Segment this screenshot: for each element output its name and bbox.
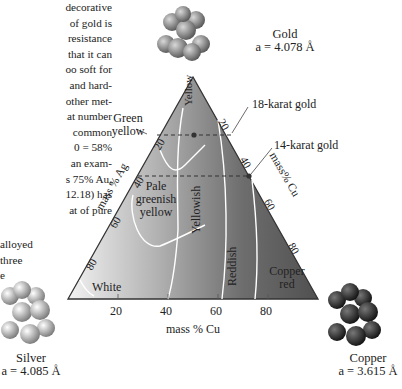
paragraph-line: at number	[0, 109, 112, 125]
paragraph-line: decorative	[0, 0, 112, 16]
bottom-axis-tick: 40	[160, 305, 172, 318]
paragraph-line: of gold is	[0, 16, 112, 32]
region-yellow: Yellow	[182, 75, 195, 106]
annotation-14-karat: 14-karat gold	[274, 139, 338, 152]
bottom-axis-label: mass % Cu	[166, 323, 220, 336]
body-paragraph: decorative of gold is resistance that it…	[0, 0, 112, 218]
paragraph-line: an exam-	[0, 156, 112, 172]
gold-atom-cluster-icon	[157, 6, 210, 61]
paragraph-line: that it can	[0, 47, 112, 63]
copper-atom-cluster-icon	[328, 283, 381, 346]
region-white: White	[92, 281, 121, 294]
region-copper-red: Copper red	[262, 265, 312, 291]
region-yellowish: Yellowish	[190, 186, 203, 234]
silver-label: Silver a = 4.085 Å	[0, 352, 66, 378]
paragraph-line: and hard-	[0, 78, 112, 94]
paragraph-line: e	[0, 268, 33, 284]
region-green-yellow: Green yellow	[108, 112, 148, 138]
paragraph-line: oo soft for	[0, 62, 112, 78]
annotation-18-karat: 18-karat gold	[252, 98, 316, 111]
paragraph-line: alloyed	[0, 237, 33, 253]
silver-atom-cluster-icon	[1, 281, 55, 344]
region-reddish: Reddish	[226, 247, 239, 286]
bottom-axis-tick: 60	[210, 305, 222, 318]
body-paragraph-2: alloyed three e	[0, 237, 33, 284]
paragraph-line: resistance	[0, 31, 112, 47]
paragraph-line: other met-	[0, 94, 112, 110]
bottom-axis-tick: 80	[260, 305, 272, 318]
paragraph-line: s 75% Au,	[0, 172, 112, 188]
paragraph-line: 0 = 58%	[0, 140, 112, 156]
copper-label: Copper a = 3.615 Å	[330, 352, 402, 378]
paragraph-line: three	[0, 253, 33, 269]
bottom-axis-tick: 20	[110, 305, 122, 318]
paragraph-line: common	[0, 125, 112, 141]
gold-label: Gold a = 4.078 Å	[245, 28, 325, 54]
